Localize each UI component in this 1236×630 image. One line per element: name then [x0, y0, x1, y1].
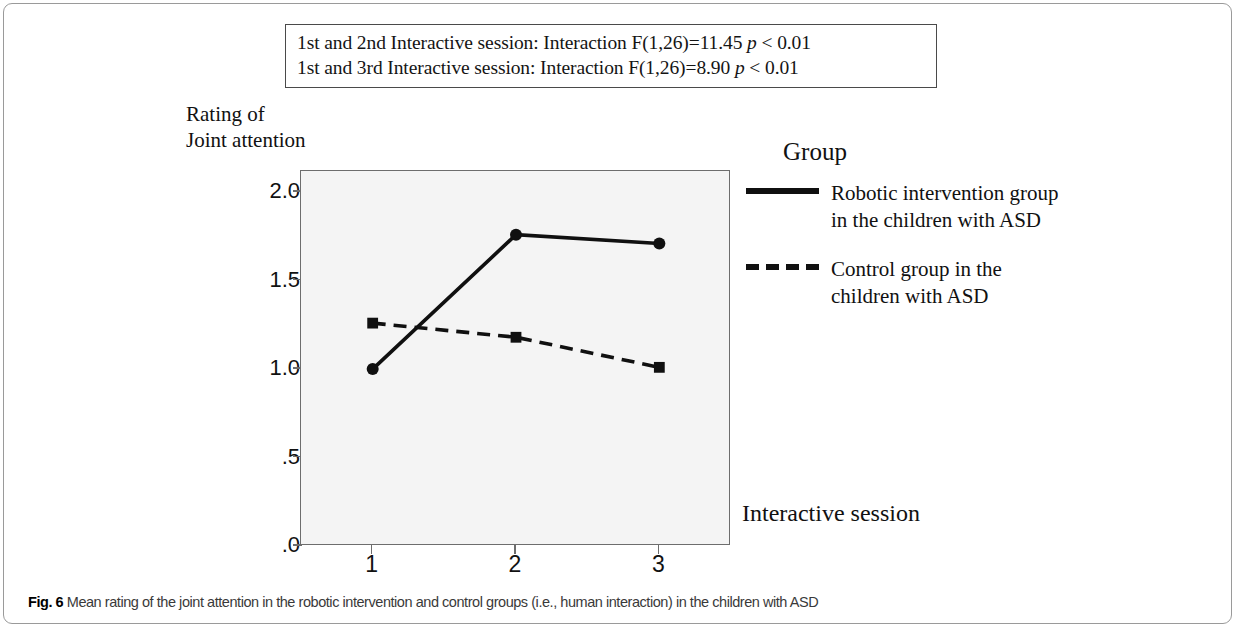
- data-point-square-marker: [367, 318, 378, 329]
- statistics-annotation-box: 1st and 2nd Interactive session: Interac…: [285, 24, 937, 88]
- legend-swatch-solid-line-icon: [745, 184, 831, 212]
- stats-line-1-prefix: 1st and 2nd Interactive session: Interac…: [297, 32, 747, 53]
- legend-item-control: Control group in the children with ASD: [745, 256, 1215, 310]
- data-point-square-marker: [654, 362, 665, 373]
- figure-caption: Fig. 6 Mean rating of the joint attentio…: [28, 594, 1213, 610]
- plot-area: [300, 170, 730, 545]
- x-tick-label: 3: [638, 551, 678, 578]
- legend-label-control-line1: Control group in the: [831, 256, 1002, 283]
- x-tick-label: 1: [352, 551, 392, 578]
- x-tick-mark: [371, 545, 373, 554]
- figure-caption-label: Fig. 6: [28, 594, 63, 610]
- x-tick-mark: [658, 545, 660, 554]
- data-point-circle-marker: [653, 238, 665, 250]
- legend-item-robotic: Robotic intervention group in the childr…: [745, 180, 1215, 234]
- plot-series-svg: [301, 171, 731, 546]
- series-line-robotic: [373, 235, 660, 369]
- legend-label-robotic-line1: Robotic intervention group: [831, 180, 1058, 207]
- legend-label-control: Control group in the children with ASD: [831, 256, 1002, 310]
- data-point-circle-marker: [367, 363, 379, 375]
- legend: Group Robotic intervention group in the …: [745, 138, 1215, 332]
- stats-line-1-suffix: < 0.01: [757, 32, 811, 53]
- figure-caption-text: Mean rating of the joint attention in th…: [67, 594, 818, 610]
- legend-label-control-line2: children with ASD: [831, 283, 1002, 310]
- legend-label-robotic-line2: in the children with ASD: [831, 207, 1058, 234]
- stats-line-1-p-symbol: p: [747, 32, 757, 53]
- y-tick-label: .0: [234, 532, 300, 558]
- legend-label-robotic: Robotic intervention group in the childr…: [831, 180, 1058, 234]
- x-tick-mark: [514, 545, 516, 554]
- figure-container: 1st and 2nd Interactive session: Interac…: [0, 0, 1236, 630]
- stats-line-2-p-symbol: p: [735, 57, 745, 78]
- y-tick-label: 1.0: [234, 355, 300, 381]
- data-point-circle-marker: [510, 229, 522, 241]
- legend-title: Group: [783, 138, 1215, 166]
- legend-swatch-dashed-line-icon: [745, 260, 831, 288]
- y-tick-label: .5: [234, 444, 300, 470]
- stats-line-2-prefix: 1st and 3rd Interactive session: Interac…: [297, 57, 735, 78]
- stats-line-2-suffix: < 0.01: [745, 57, 799, 78]
- x-tick-label: 2: [495, 551, 535, 578]
- stats-line-2: 1st and 3rd Interactive session: Interac…: [297, 55, 925, 80]
- data-point-square-marker: [511, 332, 522, 343]
- y-tick-label: 1.5: [234, 267, 300, 293]
- y-tick-label: 2.0: [234, 178, 300, 204]
- stats-line-1: 1st and 2nd Interactive session: Interac…: [297, 30, 925, 55]
- y-axis-ticks: .0.51.01.52.0: [222, 0, 300, 630]
- x-axis-title: Interactive session: [742, 500, 920, 527]
